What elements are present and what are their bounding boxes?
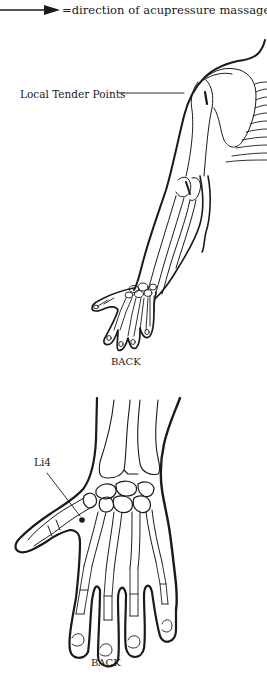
li4-point-marker <box>79 517 85 523</box>
hand-view-label: BACK <box>91 657 121 668</box>
li4-label: Li4 <box>34 456 51 468</box>
hand-skeleton-illustration <box>0 0 267 674</box>
